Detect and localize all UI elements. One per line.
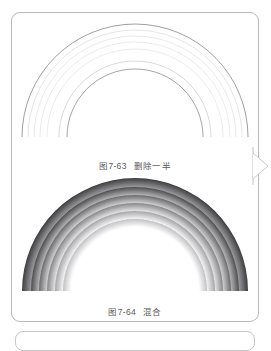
- figure-7-63-image: [12, 19, 258, 137]
- page-card[interactable]: 图7-63删除一半: [11, 12, 259, 322]
- figure-7-64-image: [12, 173, 258, 291]
- next-page-button[interactable]: [252, 147, 271, 185]
- figure-7-64-caption-text: 混合: [143, 307, 162, 317]
- figure-7-63: 图7-63删除一半: [12, 19, 258, 155]
- figure-7-63-caption-text: 删除一半: [134, 161, 171, 171]
- outline-rainbow-graphic: [12, 19, 258, 137]
- figure-7-64: 图7-64混合: [12, 173, 258, 305]
- next-page-card[interactable]: [15, 331, 255, 351]
- figure-7-64-caption: 图7-64混合: [12, 305, 258, 317]
- gradient-rainbow-graphic: [12, 173, 258, 291]
- figure-7-63-caption: 图7-63删除一半: [12, 159, 258, 171]
- figure-7-64-caption-number: 图7-64: [108, 307, 136, 317]
- figure-7-63-caption-number: 图7-63: [99, 161, 127, 171]
- chevron-right-icon[interactable]: [252, 147, 271, 185]
